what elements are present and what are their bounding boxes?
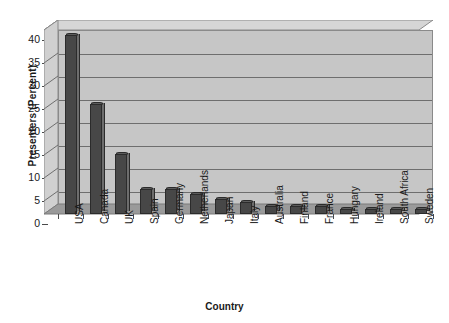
y-tick-label: 0: [14, 218, 40, 229]
x-category-label: Canada: [100, 189, 110, 224]
bar-front-face: [65, 35, 77, 214]
x-category-label: UK: [125, 210, 135, 224]
x-category-label: USA: [75, 203, 85, 224]
bar-top-face: [141, 187, 153, 190]
x-category-label: Italy: [250, 206, 260, 224]
x-category-label: Spain: [150, 198, 160, 224]
bar: [115, 154, 127, 214]
x-category-label: Finland: [300, 191, 310, 224]
x-category-label: Hungary: [350, 186, 360, 224]
x-category-label: Ireland: [375, 193, 385, 224]
bar-top-face: [241, 200, 253, 203]
x-category-label: France: [325, 193, 335, 224]
y-tick-label: 40: [14, 34, 40, 45]
bar-side-face: [127, 153, 130, 211]
y-axis-ticks: 0510152025303540: [12, 0, 40, 323]
x-category-label: Australia: [275, 185, 285, 224]
bar-top-face: [116, 152, 128, 155]
x-axis-labels: USACanadaUKSpainGermanyNetherlandsJapanI…: [44, 222, 433, 300]
y-tick-label: 35: [14, 57, 40, 68]
bar: [65, 35, 77, 214]
x-category-label: South Africa: [400, 170, 410, 224]
bar-side-face: [77, 34, 80, 211]
x-category-label: Netherlands: [200, 170, 210, 224]
x-category-label: Japan: [225, 197, 235, 224]
bar-top-face: [66, 33, 78, 36]
y-tick-label: 30: [14, 80, 40, 91]
bar-front-face: [115, 154, 127, 214]
bar-chart: Presenters (Percent) 0510152025303540 US…: [0, 0, 449, 323]
y-tick-label: 25: [14, 103, 40, 114]
x-tick-mark: [58, 214, 59, 219]
bar-top-face: [91, 102, 103, 105]
y-tick-label: 10: [14, 172, 40, 183]
x-category-label: Germany: [175, 183, 185, 224]
x-category-label: Sweden: [425, 188, 435, 224]
y-tick-label: 15: [14, 149, 40, 160]
y-tick-label: 5: [14, 195, 40, 206]
y-tick-label: 20: [14, 126, 40, 137]
x-axis-title: Country: [0, 301, 449, 312]
